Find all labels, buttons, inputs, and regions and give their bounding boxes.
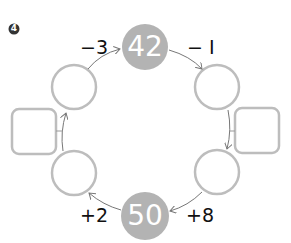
op-top-left: −3 bbox=[80, 38, 108, 57]
start-value: 42 bbox=[122, 33, 168, 61]
blank-square-right[interactable] bbox=[235, 108, 279, 153]
op-top-right: − I bbox=[187, 38, 215, 57]
blank-circle-bottom-left[interactable] bbox=[52, 151, 96, 195]
badge-number: 4 bbox=[9, 24, 19, 33]
op-bottom-left: +2 bbox=[80, 206, 108, 225]
blank-circle-top-left[interactable] bbox=[52, 65, 96, 109]
blank-circle-top-right[interactable] bbox=[195, 65, 239, 109]
arrow-left-up bbox=[62, 113, 66, 151]
blank-square-left[interactable] bbox=[12, 109, 56, 154]
end-value: 50 bbox=[122, 202, 168, 230]
op-bottom-right: +8 bbox=[186, 206, 214, 225]
blank-circle-bottom-right[interactable] bbox=[195, 150, 239, 194]
arrow-right-down bbox=[227, 110, 230, 149]
